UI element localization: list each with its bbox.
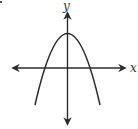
- parabola-graph: y x: [0, 0, 138, 129]
- corner-mark: [0, 1, 2, 3]
- y-axis-label: y: [62, 0, 70, 13]
- x-axis-label: x: [130, 61, 137, 75]
